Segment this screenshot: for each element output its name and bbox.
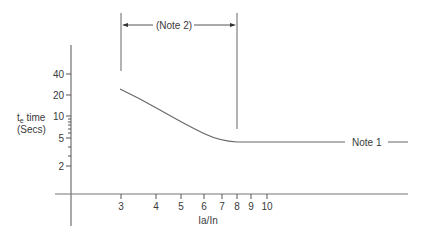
x-ticks <box>121 194 267 199</box>
y-tick-label-10: 10 <box>53 111 65 122</box>
x-tick-label-4: 4 <box>153 201 159 212</box>
y-tick-label-40: 40 <box>53 69 65 80</box>
y-ticks <box>66 74 71 166</box>
y-axis-label-units: (Secs) <box>17 124 46 135</box>
note2-arrowhead-right-icon <box>230 23 236 27</box>
y-axis-label-time: time <box>24 112 46 123</box>
characteristic-curve <box>120 89 345 142</box>
y-axis-label: te time <box>17 112 46 124</box>
note2-label: (Note 2) <box>156 20 192 31</box>
x-tick-label-5: 5 <box>178 201 184 212</box>
x-tick-label-10: 10 <box>261 201 273 212</box>
note2-arrowhead-left-icon <box>122 23 128 27</box>
x-tick-label-3: 3 <box>118 201 124 212</box>
y-tick-label-5: 5 <box>58 133 64 144</box>
x-tick-label-7: 7 <box>219 201 225 212</box>
x-tick-label-8: 8 <box>234 201 240 212</box>
note1-label: Note 1 <box>352 137 382 148</box>
y-tick-label-20: 20 <box>53 90 65 101</box>
y-tick-label-2: 2 <box>58 161 64 172</box>
x-tick-label-6: 6 <box>201 201 207 212</box>
x-tick-label-9: 9 <box>248 201 254 212</box>
x-axis-label: Ia/In <box>198 215 217 226</box>
chart-canvas: 40 20 10 5 2 te time (Secs) 3 4 5 6 7 8 … <box>0 0 426 235</box>
